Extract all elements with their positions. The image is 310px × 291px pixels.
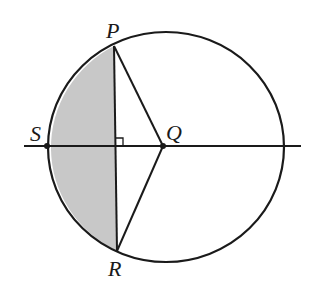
- geometry-diagram: [0, 0, 310, 291]
- label-r: R: [108, 258, 121, 280]
- segment-pq: [114, 46, 163, 146]
- right-angle-marker: [116, 138, 124, 146]
- shaded-segment: [51, 46, 117, 251]
- label-s: S: [30, 123, 41, 145]
- point-s: [44, 143, 50, 149]
- label-q: Q: [166, 122, 182, 144]
- label-p: P: [106, 20, 119, 42]
- segment-qr: [117, 146, 163, 251]
